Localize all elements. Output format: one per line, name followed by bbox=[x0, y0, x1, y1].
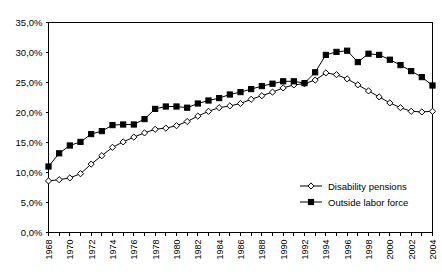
line-chart: 0,0%5,0%10,0%15,0%20,0%25,0%30,0%35,0% 1… bbox=[0, 0, 442, 280]
x-tick-label: 1974 bbox=[108, 240, 118, 260]
data-point-marker bbox=[217, 96, 222, 101]
x-tick-label: 1978 bbox=[151, 240, 161, 260]
data-point-marker bbox=[334, 49, 339, 54]
data-point-marker bbox=[302, 81, 307, 86]
data-point-marker bbox=[195, 101, 200, 106]
x-tick-label: 1972 bbox=[87, 240, 97, 260]
x-axis: 1968197019721974197619781980198219841986… bbox=[44, 233, 438, 260]
y-tick-label: 30,0% bbox=[16, 47, 43, 58]
y-tick-label: 10,0% bbox=[16, 167, 43, 178]
data-point-marker bbox=[238, 90, 243, 95]
data-point-marker bbox=[355, 60, 360, 65]
data-point-marker bbox=[227, 92, 232, 97]
data-point-marker bbox=[377, 52, 382, 57]
legend-item-label: Outside labor force bbox=[328, 197, 408, 208]
data-point-marker bbox=[89, 132, 94, 137]
y-tick-label: 15,0% bbox=[16, 137, 43, 148]
data-point-marker bbox=[259, 84, 264, 89]
data-point-marker bbox=[398, 63, 403, 68]
y-tick-label: 5,0% bbox=[21, 197, 43, 208]
x-tick-label: 2000 bbox=[385, 240, 395, 260]
data-point-marker bbox=[249, 87, 254, 92]
data-point-marker bbox=[163, 104, 168, 109]
legend-item-label: Disability pensions bbox=[328, 181, 407, 192]
data-point-marker bbox=[281, 79, 286, 84]
data-point-marker bbox=[430, 83, 435, 88]
x-tick-label: 1998 bbox=[364, 240, 374, 260]
data-point-marker bbox=[121, 122, 126, 127]
x-tick-label: 1976 bbox=[129, 240, 139, 260]
data-point-marker bbox=[131, 122, 136, 127]
data-point-marker bbox=[270, 81, 275, 86]
x-tick-label: 1990 bbox=[279, 240, 289, 260]
x-tick-label: 1994 bbox=[321, 240, 331, 260]
data-point-marker bbox=[78, 139, 83, 144]
data-point-marker bbox=[291, 79, 296, 84]
y-axis: 0,0%5,0%10,0%15,0%20,0%25,0%30,0%35,0% bbox=[16, 17, 49, 238]
x-tick-label: 1970 bbox=[65, 240, 75, 260]
data-point-marker bbox=[185, 105, 190, 110]
x-tick-label: 1992 bbox=[300, 240, 310, 260]
y-tick-label: 25,0% bbox=[16, 77, 43, 88]
x-tick-label: 1986 bbox=[236, 240, 246, 260]
legend-marker bbox=[308, 199, 313, 204]
x-tick-label: 1968 bbox=[44, 240, 54, 260]
data-point-marker bbox=[99, 129, 104, 134]
data-point-marker bbox=[419, 75, 424, 80]
data-point-marker bbox=[409, 69, 414, 74]
x-tick-label: 1980 bbox=[172, 240, 182, 260]
data-point-marker bbox=[323, 52, 328, 57]
y-tick-label: 0,0% bbox=[21, 227, 43, 238]
data-point-marker bbox=[345, 48, 350, 53]
data-point-marker bbox=[366, 51, 371, 56]
data-point-marker bbox=[206, 98, 211, 103]
y-tick-label: 20,0% bbox=[16, 107, 43, 118]
data-point-marker bbox=[387, 57, 392, 62]
x-tick-label: 2004 bbox=[428, 240, 438, 260]
data-point-marker bbox=[110, 123, 115, 128]
y-tick-label: 35,0% bbox=[16, 17, 43, 28]
data-point-marker bbox=[46, 164, 51, 169]
chart-container: 0,0%5,0%10,0%15,0%20,0%25,0%30,0%35,0% 1… bbox=[0, 0, 442, 280]
data-point-marker bbox=[57, 151, 62, 156]
x-tick-label: 1982 bbox=[193, 240, 203, 260]
data-point-marker bbox=[67, 143, 72, 148]
data-point-marker bbox=[313, 70, 318, 75]
x-tick-label: 2002 bbox=[407, 240, 417, 260]
x-tick-label: 1988 bbox=[257, 240, 267, 260]
data-point-marker bbox=[142, 117, 147, 122]
data-point-marker bbox=[153, 106, 158, 111]
x-tick-label: 1984 bbox=[215, 240, 225, 260]
data-point-marker bbox=[174, 104, 179, 109]
x-tick-label: 1996 bbox=[343, 240, 353, 260]
